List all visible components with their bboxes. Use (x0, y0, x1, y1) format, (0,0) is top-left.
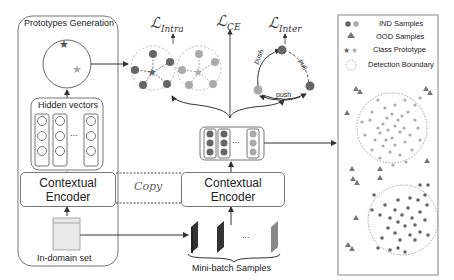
hidden-vectors-ellipsis: ... (70, 128, 78, 138)
minibatch-samples-label: Mini-batch Samples (192, 263, 271, 273)
loss-inter-subscript: Inter (279, 24, 302, 34)
loss-intra-subscript: Intra (161, 24, 184, 34)
left-contextual-encoder: ContextualEncoder (20, 172, 116, 207)
features-ellipsis: ... (232, 135, 240, 145)
dark-star-icon: ★ (59, 38, 69, 50)
hidden-vectors-label: Hidden vectors (38, 100, 98, 110)
svg-text:★: ★ (193, 66, 203, 78)
legend-boundary-label: Detection Boundary (368, 60, 434, 69)
intra-cluster-light: ★ (177, 46, 221, 90)
loss-ce-symbol: ℒ (216, 12, 227, 30)
loss-intra: ℒIntra (150, 14, 184, 34)
loss-ce: ℒCE (216, 12, 240, 32)
left-encoder-line1: Contextual (39, 176, 96, 190)
middle-encoder-line2: Encoder (204, 190, 261, 204)
light-star-icon: ★ (72, 63, 82, 75)
prototype-light-star-icon: ★ (351, 46, 358, 55)
prototype-dark-star-icon: ★ (343, 46, 350, 55)
loss-inter-symbol: ℒ (268, 14, 279, 32)
middle-encoder-line1: Contextual (204, 176, 261, 190)
prototypes-generation-title: Prototypes Generation (24, 18, 114, 28)
middle-contextual-encoder: ContextualEncoder (181, 172, 285, 207)
loss-intra-symbol: ℒ (150, 14, 161, 32)
minibatch-samples (188, 221, 280, 262)
push-bottom-label: push (276, 91, 291, 98)
svg-text:★: ★ (147, 66, 157, 78)
legend-ood-label: OOD Samples (376, 32, 424, 41)
legend-ind-label: IND Samples (379, 19, 423, 28)
ind-light-circle-icon (353, 21, 359, 27)
ind-dark-circle-icon (345, 21, 351, 27)
legend-prototype-label: Class Prototype (373, 45, 426, 54)
loss-ce-subscript: CE (227, 22, 240, 32)
minibatch-ellipsis: ... (242, 230, 250, 240)
loss-inter: ℒInter (268, 14, 302, 34)
copy-label: Copy (134, 180, 162, 193)
left-encoder-line2: Encoder (39, 190, 96, 204)
intra-cluster-dark: ★ (131, 46, 175, 90)
in-domain-set-label: In-domain set (37, 253, 92, 263)
diagram-canvas: ★ ★ ★ (0, 0, 454, 280)
